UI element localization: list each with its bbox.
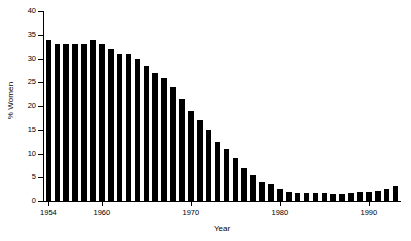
bar xyxy=(250,175,256,201)
x-tick-mark xyxy=(369,202,370,206)
x-axis-label: Year xyxy=(44,224,400,233)
x-tick-mark xyxy=(191,202,192,206)
x-axis-line xyxy=(43,201,401,202)
bar xyxy=(393,186,399,201)
y-axis-label-text: % Women xyxy=(7,82,16,119)
x-tick-mark xyxy=(48,202,49,206)
bar xyxy=(348,193,354,201)
bar xyxy=(63,44,69,201)
bar xyxy=(90,40,96,202)
bar xyxy=(259,182,265,201)
x-tick-mark xyxy=(102,202,103,206)
bar xyxy=(215,142,221,201)
bar xyxy=(170,87,176,201)
bar xyxy=(206,130,212,201)
bar xyxy=(322,193,328,201)
y-tick-label: 5 xyxy=(14,173,36,181)
bar xyxy=(268,184,274,201)
y-tick-mark xyxy=(38,201,43,202)
bar xyxy=(295,193,301,201)
y-tick-label: 20 xyxy=(14,102,36,110)
bar xyxy=(144,66,150,201)
y-tick-mark xyxy=(38,11,43,12)
bar xyxy=(313,193,319,201)
bar xyxy=(161,78,167,202)
x-tick-mark xyxy=(280,202,281,206)
bar xyxy=(384,189,390,201)
x-tick-label: 1990 xyxy=(349,208,389,217)
y-tick-label: 35 xyxy=(14,31,36,39)
x-tick-label: 1970 xyxy=(171,208,211,217)
bar xyxy=(126,54,132,201)
y-tick-label: 30 xyxy=(14,55,36,63)
y-tick-label: 40 xyxy=(14,7,36,15)
chart-figure: % Women 0510152025303540 195419601970198… xyxy=(0,0,411,241)
y-tick-mark xyxy=(38,35,43,36)
bar xyxy=(179,99,185,201)
bar xyxy=(55,44,61,201)
bar xyxy=(277,189,283,201)
y-tick-label: 10 xyxy=(14,150,36,158)
bar xyxy=(72,44,78,201)
bar xyxy=(188,111,194,201)
bar xyxy=(99,44,105,201)
bar xyxy=(233,158,239,201)
y-tick-mark xyxy=(38,130,43,131)
y-tick-mark xyxy=(38,177,43,178)
x-tick-label: 1954 xyxy=(28,208,68,217)
y-tick-label: 0 xyxy=(14,197,36,205)
bar xyxy=(330,194,336,201)
x-tick-label: 1980 xyxy=(260,208,300,217)
bar xyxy=(117,54,123,201)
y-tick-mark xyxy=(38,82,43,83)
bar xyxy=(46,40,52,202)
bar xyxy=(81,44,87,201)
y-tick-label: 15 xyxy=(14,126,36,134)
bar xyxy=(366,192,372,202)
bar xyxy=(224,149,230,201)
bar xyxy=(375,191,381,201)
y-tick-mark xyxy=(38,59,43,60)
y-tick-mark xyxy=(38,106,43,107)
bar xyxy=(152,73,158,201)
bar xyxy=(241,168,247,201)
bar xyxy=(108,49,114,201)
bar xyxy=(339,194,345,201)
y-tick-mark xyxy=(38,154,43,155)
bar xyxy=(286,192,292,202)
bar xyxy=(357,192,363,201)
bar xyxy=(135,59,141,202)
y-tick-label: 25 xyxy=(14,78,36,86)
bar xyxy=(304,193,310,201)
plot-area xyxy=(44,11,400,201)
x-tick-label: 1960 xyxy=(82,208,122,217)
bar xyxy=(197,120,203,201)
